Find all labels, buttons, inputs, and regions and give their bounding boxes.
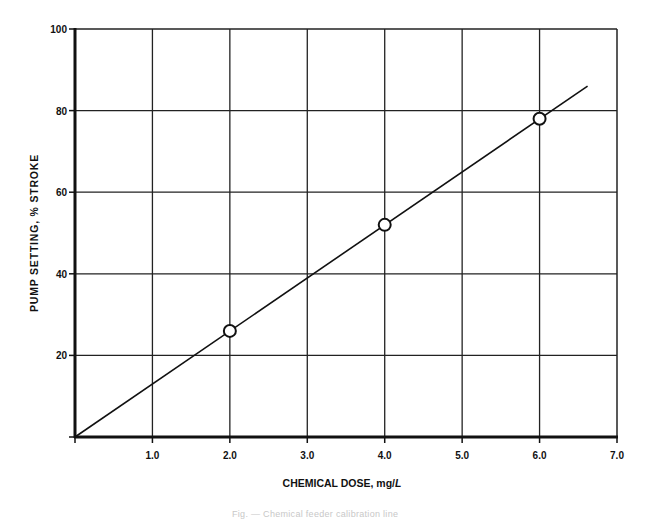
x-axis-title-main: CHEMICAL DOSE, mg/ [283, 477, 395, 489]
x-tick-label: 5.0 [455, 450, 469, 461]
x-axis-title-unit: L [395, 477, 401, 489]
y-tick-label: 60 [56, 187, 68, 198]
data-point-marker [379, 219, 391, 231]
data-point-marker [534, 113, 546, 125]
x-axis-title: CHEMICAL DOSE, mg/L [283, 477, 402, 489]
x-tick-label: 3.0 [300, 450, 314, 461]
x-tick-label: 7.0 [610, 450, 624, 461]
y-tick-label: 80 [56, 106, 68, 117]
y-tick-label: 100 [50, 24, 67, 35]
figure-caption: Fig. — Chemical feeder calibration line [232, 509, 398, 519]
y-tick-label: 40 [56, 269, 68, 280]
x-tick-label: 2.0 [223, 450, 237, 461]
y-axis-title: PUMP SETTING, % STROKE [28, 154, 40, 312]
grid-lines [75, 29, 617, 437]
x-tick-label: 1.0 [145, 450, 159, 461]
y-tick-label: 20 [56, 350, 68, 361]
x-tick-label: 4.0 [378, 450, 392, 461]
axes [74, 28, 618, 438]
data-point-marker [224, 325, 236, 337]
x-tick-label: 6.0 [533, 450, 547, 461]
